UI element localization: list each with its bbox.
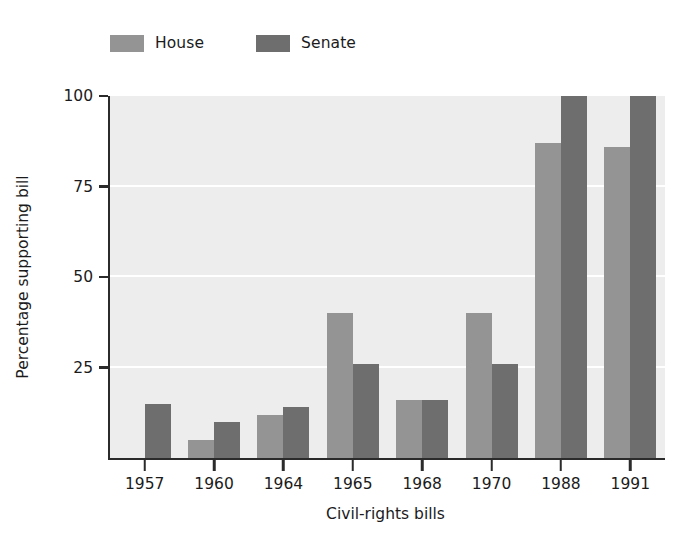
x-tick-1988 <box>560 460 563 471</box>
x-tick-label-1957: 1957 <box>125 475 164 493</box>
y-tick-label-25: 25 <box>73 359 93 377</box>
y-tick-50: 50 <box>99 276 108 279</box>
x-tick-1991 <box>629 460 632 471</box>
y-tick-75: 75 <box>99 185 108 188</box>
bar-group-1957 <box>119 96 171 458</box>
bar-senate-1965 <box>353 364 379 458</box>
bar-senate-1964 <box>283 407 309 458</box>
x-tick-1964 <box>282 460 285 471</box>
bar-senate-1957 <box>145 404 171 458</box>
bar-senate-1960 <box>214 422 240 458</box>
bar-house-1960 <box>188 440 214 458</box>
x-tick-label-1964: 1964 <box>264 475 303 493</box>
x-axis-title: Civil-rights bills <box>108 505 663 523</box>
bar-senate-1988 <box>561 96 587 458</box>
x-tick-1968 <box>421 460 424 471</box>
bar-group-1968 <box>396 96 448 458</box>
x-tick-label-1968: 1968 <box>402 475 441 493</box>
bar-house-1988 <box>535 143 561 458</box>
x-tick-label-1991: 1991 <box>611 475 650 493</box>
bar-group-1964 <box>257 96 309 458</box>
y-axis-title-label: Percentage supporting bill <box>14 175 32 378</box>
x-tick-1957 <box>143 460 146 471</box>
y-tick-100: 100 <box>99 95 108 98</box>
legend-swatch-senate <box>256 35 290 52</box>
legend-item-house: House <box>110 34 204 52</box>
bar-house-1968 <box>396 400 422 458</box>
x-tick-label-1970: 1970 <box>472 475 511 493</box>
chart-legend: HouseSenate <box>110 30 356 56</box>
bar-group-1960 <box>188 96 240 458</box>
plot-area <box>110 96 665 458</box>
x-tick-label-1988: 1988 <box>541 475 580 493</box>
x-tick-1970 <box>490 460 493 471</box>
bar-group-1970 <box>466 96 518 458</box>
y-tick-label-50: 50 <box>73 268 93 286</box>
bar-senate-1991 <box>630 96 656 458</box>
bar-group-1965 <box>327 96 379 458</box>
x-tick-1960 <box>213 460 216 471</box>
bar-house-1965 <box>327 313 353 458</box>
bar-house-1970 <box>466 313 492 458</box>
y-tick-label-75: 75 <box>73 178 93 196</box>
bar-senate-1968 <box>422 400 448 458</box>
legend-label-senate: Senate <box>301 34 356 52</box>
bar-house-1991 <box>604 147 630 458</box>
bar-house-1964 <box>257 415 283 458</box>
plot-frame: 255075100 195719601964196519681970198819… <box>108 96 665 460</box>
x-tick-label-1960: 1960 <box>194 475 233 493</box>
x-tick-1965 <box>352 460 355 471</box>
bar-group-1991 <box>604 96 656 458</box>
legend-label-house: House <box>155 34 204 52</box>
x-tick-label-1965: 1965 <box>333 475 372 493</box>
legend-item-senate: Senate <box>256 34 356 52</box>
y-tick-label-100: 100 <box>63 87 93 105</box>
bar-group-1988 <box>535 96 587 458</box>
y-axis-title: Percentage supporting bill <box>12 96 34 458</box>
legend-swatch-house <box>110 35 144 52</box>
bar-senate-1970 <box>492 364 518 458</box>
y-tick-25: 25 <box>99 366 108 369</box>
